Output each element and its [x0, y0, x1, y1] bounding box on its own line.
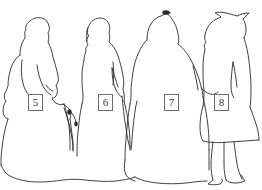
label-box-6: 6 — [98, 94, 113, 111]
figure-2-outline — [77, 18, 137, 156]
figure-3-outline — [125, 10, 218, 160]
label-box-8: 8 — [214, 94, 229, 111]
drawing-canvas: 5 6 7 8 — [0, 0, 262, 190]
figure-1-outline — [1, 18, 70, 165]
label-box-5-text: 5 — [33, 97, 39, 108]
label-box-7-text: 7 — [169, 97, 175, 108]
label-box-8-text: 8 — [219, 97, 225, 108]
label-box-7: 7 — [164, 94, 179, 111]
ground-hemline — [1, 150, 209, 184]
label-box-6-text: 6 — [103, 97, 109, 108]
label-box-5: 5 — [28, 94, 43, 111]
